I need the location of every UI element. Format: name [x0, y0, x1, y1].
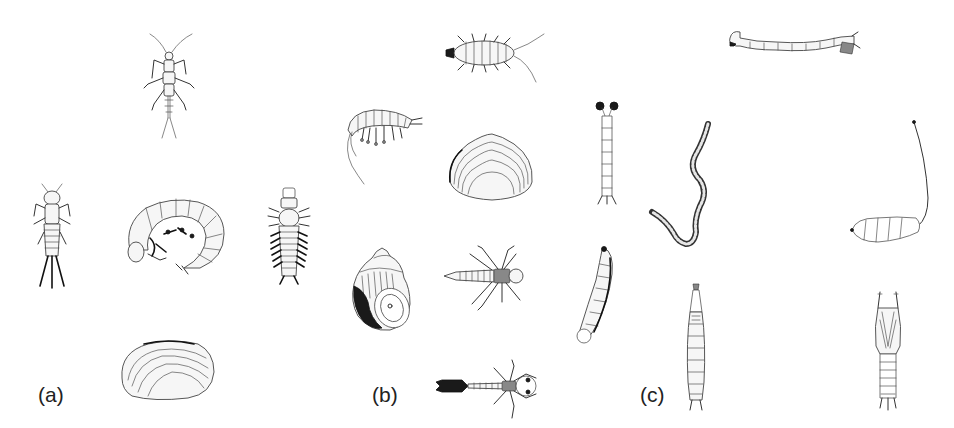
panel-label-c: (c): [640, 384, 665, 405]
sowbug-illustration: [444, 32, 548, 88]
leech-illustration: [574, 244, 620, 348]
damselfly-nymph-illustration: [442, 244, 528, 312]
panel-label-a: (a): [38, 384, 64, 405]
midge-larva-illustration: [726, 28, 862, 60]
clam-illustration: [446, 132, 536, 202]
mussel-illustration: [118, 338, 216, 402]
scud-illustration: [342, 106, 424, 188]
phantom-larva-illustration: [592, 100, 622, 208]
snail-illustration: [348, 246, 414, 332]
macroinvertebrate-figure: (a): [0, 0, 954, 428]
pupa-illustration: [870, 290, 906, 414]
mayfly-nymph-illustration: [28, 182, 76, 290]
stonefly-nymph-illustration: [138, 30, 202, 142]
rat-tailed-maggot-illustration: [848, 118, 938, 248]
panel-label-b: (b): [372, 384, 398, 405]
dobsonfly-larva-illustration: [266, 186, 312, 290]
cranefly-larva-illustration: [678, 282, 714, 414]
dragonfly-nymph-illustration: [436, 360, 542, 420]
aquatic-worm-illustration: [650, 120, 720, 250]
caddisfly-larva-illustration: [120, 194, 228, 276]
